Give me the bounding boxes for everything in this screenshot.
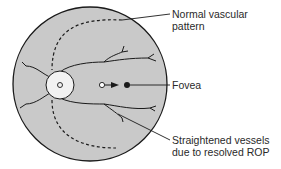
label-straightened: Straightened vessels due to resolved ROP — [172, 134, 269, 158]
label-fovea: Fovea — [172, 79, 201, 91]
fundus-circle — [13, 7, 167, 161]
original-fovea — [99, 82, 104, 87]
optic-disc-center — [58, 83, 63, 88]
label-normal-pattern: Normal vascular pattern — [172, 8, 248, 32]
displaced-fovea — [124, 82, 130, 88]
